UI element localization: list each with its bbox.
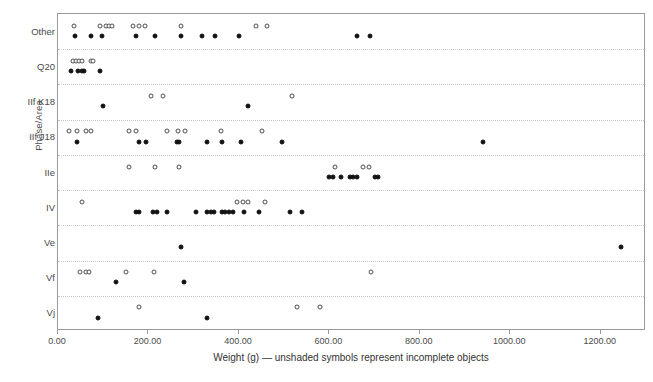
data-point <box>144 139 149 144</box>
data-point <box>199 33 204 38</box>
data-point <box>74 129 79 134</box>
data-point <box>318 305 323 310</box>
data-point <box>68 69 73 74</box>
data-point <box>177 164 182 169</box>
data-point <box>79 199 84 204</box>
y-tick-label: Ve <box>3 236 55 247</box>
data-point <box>257 209 262 214</box>
data-point <box>73 33 78 38</box>
data-point <box>95 315 100 320</box>
data-point <box>66 129 71 134</box>
data-point <box>290 94 295 99</box>
data-point <box>367 164 372 169</box>
data-point <box>205 139 210 144</box>
x-tick-mark <box>419 330 420 334</box>
data-point <box>79 58 84 63</box>
data-point <box>151 270 156 275</box>
data-point <box>240 199 245 204</box>
data-point <box>245 199 250 204</box>
data-point <box>218 129 223 134</box>
data-point <box>332 164 337 169</box>
data-point <box>133 129 138 134</box>
data-point <box>300 209 305 214</box>
data-point <box>231 209 236 214</box>
data-point <box>137 305 142 310</box>
data-point <box>137 209 142 214</box>
data-point <box>97 23 102 28</box>
data-point <box>245 104 250 109</box>
y-tick-label: Vj <box>3 307 55 318</box>
data-point <box>123 270 128 275</box>
x-tick-mark <box>328 330 329 334</box>
data-point <box>368 33 373 38</box>
data-point <box>160 94 165 99</box>
gridline <box>58 296 644 297</box>
data-point <box>338 174 343 179</box>
data-point <box>165 129 170 134</box>
data-point <box>148 94 153 99</box>
y-tick-label: Vf <box>3 272 55 283</box>
data-point <box>113 280 118 285</box>
data-point <box>260 129 265 134</box>
data-point <box>294 305 299 310</box>
data-point <box>354 33 359 38</box>
data-point <box>142 23 147 28</box>
data-point <box>164 209 169 214</box>
y-tick-label: Other <box>3 25 55 36</box>
y-tick-label: IIf K18 <box>3 96 55 107</box>
y-axis-tick-labels: OtherQ20IIf K18IIf J18IIeIVVeVfVj <box>0 0 55 382</box>
data-point <box>88 33 93 38</box>
data-point <box>89 129 94 134</box>
data-point <box>77 270 82 275</box>
data-point <box>101 104 106 109</box>
data-point <box>239 139 244 144</box>
x-tick-label: 0.00 <box>48 336 66 346</box>
data-point <box>133 33 138 38</box>
data-point <box>100 33 105 38</box>
data-point <box>254 23 259 28</box>
plot-area <box>57 13 645 330</box>
data-point <box>127 164 132 169</box>
data-point <box>376 174 381 179</box>
data-point <box>176 129 181 134</box>
data-point <box>219 139 224 144</box>
scatter-plot-figure: Phase/Area OtherQ20IIf K18IIf J18IIeIVVe… <box>0 0 653 382</box>
data-point <box>153 33 158 38</box>
data-point <box>137 139 142 144</box>
gridline <box>58 190 644 191</box>
data-point <box>91 58 96 63</box>
gridline <box>58 84 644 85</box>
data-point <box>177 139 182 144</box>
y-tick-label: IIe <box>3 166 55 177</box>
data-point <box>86 270 91 275</box>
gridline <box>58 261 644 262</box>
x-tick-label: 800.00 <box>405 336 433 346</box>
gridline <box>58 225 644 226</box>
x-tick-label: 1200.00 <box>583 336 616 346</box>
data-point <box>71 23 76 28</box>
data-point <box>354 174 359 179</box>
data-point <box>242 209 247 214</box>
data-point <box>153 164 158 169</box>
data-point <box>154 209 159 214</box>
x-tick-label: 400.00 <box>224 336 252 346</box>
x-tick-mark <box>600 330 601 334</box>
data-point <box>279 139 284 144</box>
y-tick-label: IIf J18 <box>3 131 55 142</box>
data-point <box>331 174 336 179</box>
y-tick-label: Q20 <box>3 60 55 71</box>
gridline <box>58 120 644 121</box>
data-point <box>619 245 624 250</box>
data-point <box>212 209 217 214</box>
x-tick-mark <box>238 330 239 334</box>
data-point <box>361 164 366 169</box>
data-point <box>181 280 186 285</box>
data-point <box>84 129 89 134</box>
x-tick-label: 1000.00 <box>493 336 526 346</box>
x-axis-title: Weight (g) — unshaded symbols represent … <box>57 352 645 363</box>
data-point <box>182 129 187 134</box>
x-tick-mark <box>509 330 510 334</box>
data-point <box>136 23 141 28</box>
data-point <box>179 33 184 38</box>
data-point <box>74 139 79 144</box>
